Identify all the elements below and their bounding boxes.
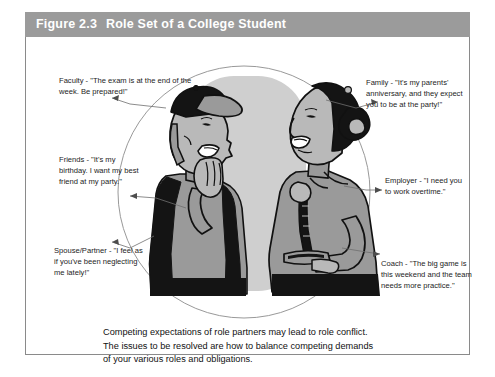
figure-header-bar: Figure 2.3Role Set of a College Student [25, 12, 470, 37]
figure-header-text: Figure 2.3Role Set of a College Student [36, 17, 286, 31]
figure-number: Figure 2.3 [36, 17, 97, 31]
arrowhead-friends [130, 193, 137, 199]
callout-friends: Friends - "It's my birthday. I want my b… [59, 155, 141, 187]
figure-canvas: Faculty - "The exam is at the end of the… [26, 38, 469, 354]
callout-employer: Employer - "I need you to work overtime.… [385, 176, 465, 198]
arrowhead-coach [373, 251, 380, 257]
figure-caption: Competing expectations of role partners … [103, 326, 433, 367]
caption-line-2: The issues to be resolved are how to bal… [103, 340, 433, 354]
arrowhead-spouse [112, 239, 119, 245]
callout-family: Family - "It's my parents' anniversary, … [366, 78, 466, 110]
callout-coach: Coach - "The big game is this weekend an… [381, 259, 474, 291]
callout-faculty: Faculty - "The exam is at the end of the… [59, 76, 199, 98]
left-figure-man [150, 85, 248, 296]
callout-spouse: Spouse/Partner - "I feel as if you've be… [54, 246, 146, 278]
figure-panel: Figure 2.3Role Set of a College Student [25, 12, 470, 355]
figure-title: Role Set of a College Student [106, 17, 286, 31]
caption-line-1: Competing expectations of role partners … [103, 326, 433, 340]
caption-line-3: of your various roles and obligations. [103, 353, 433, 367]
arrowhead-employer [375, 187, 382, 193]
